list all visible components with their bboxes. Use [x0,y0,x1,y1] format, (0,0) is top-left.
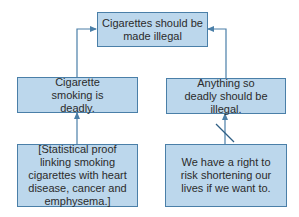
premise-right-text: Anything so deadly should be illegal. [171,77,281,116]
premise-left-box: Cigarette smoking is deadly. [17,77,138,113]
evidence-text: [Statistical proof linking smoking cigar… [22,143,133,208]
premise-right-box: Anything so deadly should be illegal. [166,78,286,114]
conclusion-box: Cigarettes should be made illegal [97,12,208,47]
conclusion-text: Cigarettes should be made illegal [102,17,203,43]
premise-left-text: Cigarette smoking is deadly. [22,76,133,115]
arrow-right-to-conclusion [208,29,226,78]
rebuttal-box: We have a right to risk shortening our l… [165,144,287,207]
rebuttal-text: We have a right to risk shortening our l… [170,156,282,195]
evidence-box: [Statistical proof linking smoking cigar… [17,144,138,207]
arrow-left-to-conclusion [77,29,96,77]
